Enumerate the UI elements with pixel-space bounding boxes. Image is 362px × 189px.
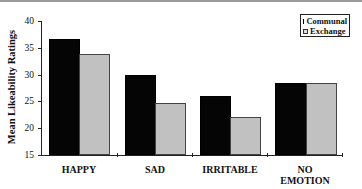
y-tick-label: 30 — [14, 70, 34, 80]
x-label-happy: HAPPY — [44, 164, 114, 175]
x-tick — [267, 153, 268, 157]
y-axis — [41, 21, 42, 155]
y-tick-label: 40 — [14, 16, 34, 26]
x-tick — [192, 153, 193, 157]
legend-item-exchange: Exchange — [303, 26, 347, 36]
exchange-swatch-icon — [303, 29, 308, 34]
y-tick-label: 25 — [14, 96, 34, 106]
x-label-irritable: IRRITABLE — [195, 164, 265, 175]
bar-irritable-exchange — [230, 117, 261, 155]
x-label-no-emotion-line1: NO — [270, 164, 340, 175]
bar-sad-exchange — [155, 103, 186, 155]
x-tick — [342, 153, 343, 157]
legend-item-communal: Communal — [303, 16, 347, 26]
bar-sad-communal — [125, 75, 156, 155]
y-tick — [38, 155, 42, 156]
legend-label-communal: Communal — [306, 16, 347, 26]
legend-label-exchange: Exchange — [310, 26, 345, 36]
y-tick — [38, 48, 42, 49]
legend: Communal Exchange — [300, 14, 350, 37]
y-tick — [38, 75, 42, 76]
top-border — [0, 0, 362, 2]
y-tick-label: 35 — [14, 43, 34, 53]
y-tick — [38, 128, 42, 129]
y-tick — [38, 101, 42, 102]
x-tick — [117, 153, 118, 157]
x-label-no-emotion-line2: EMOTION — [270, 175, 340, 186]
bar-no-emotion-exchange — [306, 83, 337, 155]
bar-happy-exchange — [79, 54, 110, 155]
x-label-no-emotion: NO EMOTION — [270, 164, 340, 186]
bar-happy-communal — [49, 39, 80, 155]
y-tick — [38, 21, 42, 22]
y-tick-label: 20 — [14, 123, 34, 133]
bar-no-emotion-communal — [275, 83, 307, 155]
x-label-sad: SAD — [120, 164, 190, 175]
bar-irritable-communal — [200, 96, 231, 155]
y-tick-label: 15 — [14, 150, 34, 160]
communal-swatch-icon — [303, 19, 304, 24]
